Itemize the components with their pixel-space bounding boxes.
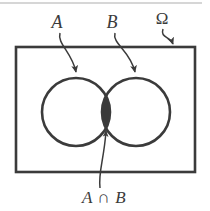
circle-a: [42, 78, 110, 146]
leader-arrow-a: [60, 33, 76, 72]
label-set-a: A: [51, 12, 64, 32]
label-set-b: B: [107, 12, 118, 32]
label-intersection: A ∩ B: [81, 188, 126, 207]
leader-arrow-b: [115, 33, 135, 72]
venn-diagram-canvas: A B Ω A ∩ B: [0, 0, 210, 211]
venn-diagram-figure: A B Ω A ∩ B: [0, 0, 210, 211]
label-universe-omega: Ω: [156, 9, 169, 28]
leader-arrow-omega: [162, 29, 173, 44]
circle-b: [102, 78, 170, 146]
leader-arrow-intersection: [100, 131, 106, 188]
